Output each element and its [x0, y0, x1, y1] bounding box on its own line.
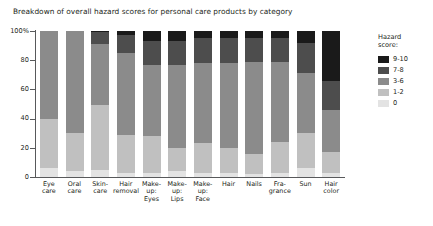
bar-segment[interactable]	[220, 63, 238, 148]
bar-segment[interactable]	[143, 136, 161, 173]
bar-segment[interactable]	[245, 154, 263, 174]
bar-stack[interactable]	[143, 31, 161, 177]
bar-segment[interactable]	[91, 31, 109, 32]
x-axis-tick-label-line: Lips	[164, 196, 190, 203]
bar-stack[interactable]	[245, 31, 263, 177]
x-axis-tick-label-line: Nails	[241, 181, 267, 188]
bar-segment[interactable]	[194, 173, 212, 177]
bar-segment[interactable]	[297, 133, 315, 168]
bar-segment[interactable]	[91, 105, 109, 169]
bar-segment[interactable]	[220, 38, 238, 63]
bar-segment[interactable]	[245, 62, 263, 154]
legend-entry[interactable]: 0	[378, 98, 408, 109]
bar-stack[interactable]	[91, 31, 109, 177]
bar-segment[interactable]	[220, 148, 238, 173]
bar-stack[interactable]	[40, 31, 58, 177]
legend-label: 0	[393, 100, 397, 107]
legend-swatch	[378, 67, 389, 74]
bar-segment[interactable]	[143, 41, 161, 64]
bar-segment[interactable]	[117, 53, 135, 135]
bar-segment[interactable]	[40, 31, 58, 119]
bar-segment[interactable]	[322, 81, 340, 110]
legend-label: 7-8	[393, 67, 404, 74]
bar-segment[interactable]	[66, 31, 84, 133]
bar-segment[interactable]	[168, 171, 186, 177]
x-axis-tick-label-line: Sun	[293, 181, 319, 188]
y-axis-tick	[30, 119, 35, 120]
x-axis-tick-label-line: care	[87, 188, 113, 195]
bar-segment[interactable]	[117, 31, 135, 35]
legend-entry[interactable]: 1-2	[378, 87, 408, 98]
bar-segment[interactable]	[271, 173, 289, 177]
bar-segment[interactable]	[168, 41, 186, 64]
bar-segment[interactable]	[143, 31, 161, 41]
y-axis-line	[35, 30, 36, 178]
bar-segment[interactable]	[322, 173, 340, 177]
y-axis-tick	[30, 89, 35, 90]
x-axis-tick-label-line: care	[62, 188, 88, 195]
bar-stack[interactable]	[271, 31, 289, 177]
x-axis-tick-label: Make-up:Face	[190, 181, 216, 203]
bar-segment[interactable]	[194, 143, 212, 172]
bar-segment[interactable]	[117, 35, 135, 53]
bar-segment[interactable]	[66, 171, 84, 177]
bar-segment[interactable]	[194, 63, 212, 143]
bar-segment[interactable]	[271, 31, 289, 38]
bar-segment[interactable]	[220, 173, 238, 177]
bar-segment[interactable]	[117, 135, 135, 173]
bar-segment[interactable]	[245, 31, 263, 38]
bar-stack[interactable]	[297, 31, 315, 177]
bar-segment[interactable]	[297, 31, 315, 43]
bar-segment[interactable]	[245, 174, 263, 177]
bar-segment[interactable]	[271, 142, 289, 173]
bar-segment[interactable]	[245, 38, 263, 61]
bar-segment[interactable]	[220, 31, 238, 38]
bar-segment[interactable]	[194, 31, 212, 38]
bar-segment[interactable]	[297, 168, 315, 177]
x-axis-tick-label: Eyecare	[36, 181, 62, 196]
legend-title-line: score:	[378, 41, 408, 49]
x-axis-tick-label-line: Hair	[216, 181, 242, 188]
bar-segment[interactable]	[117, 173, 135, 177]
x-axis-tick-label-line: grance	[267, 188, 293, 195]
bar-stack[interactable]	[220, 31, 238, 177]
bar-segment[interactable]	[297, 43, 315, 74]
legend-swatch	[378, 89, 389, 96]
bar-segment[interactable]	[271, 38, 289, 61]
bar-stack-inner	[168, 31, 186, 177]
bar-segment[interactable]	[194, 38, 212, 63]
bar-segment[interactable]	[322, 31, 340, 81]
legend-entry[interactable]: 9-10	[378, 54, 408, 65]
bar-segment[interactable]	[91, 170, 109, 177]
bar-stack[interactable]	[322, 31, 340, 177]
legend-entry[interactable]: 7-8	[378, 65, 408, 76]
bar-segment[interactable]	[322, 152, 340, 172]
x-axis-tick-label-line: color	[318, 188, 344, 195]
bar-segment[interactable]	[143, 65, 161, 137]
chart-figure: Breakdown of overall hazard scores for p…	[0, 0, 433, 226]
bar-stack[interactable]	[168, 31, 186, 177]
bar-segment[interactable]	[297, 73, 315, 133]
y-axis-tick	[30, 177, 35, 178]
bar-segment[interactable]	[40, 168, 58, 177]
bar-stack[interactable]	[194, 31, 212, 177]
bar-stack[interactable]	[117, 31, 135, 177]
bar-segment[interactable]	[91, 32, 109, 44]
x-axis-tick-label-line: removal	[113, 188, 139, 195]
legend-entry[interactable]: 3-6	[378, 76, 408, 87]
bar-segment[interactable]	[40, 119, 58, 169]
bar-segment[interactable]	[66, 133, 84, 171]
legend: Hazardscore: 9-107-83-61-20	[378, 33, 408, 109]
bar-segment[interactable]	[271, 62, 289, 142]
bar-segment[interactable]	[168, 31, 186, 41]
bar-stack-inner	[117, 31, 135, 177]
bar-segment[interactable]	[168, 65, 186, 148]
bar-segment[interactable]	[322, 110, 340, 152]
legend-title-line: Hazard	[378, 33, 408, 41]
bar-segment[interactable]	[91, 44, 109, 105]
bar-segment[interactable]	[143, 173, 161, 177]
bar-segment[interactable]	[168, 148, 186, 171]
bar-stack[interactable]	[66, 31, 84, 177]
y-axis-tick	[30, 148, 35, 149]
y-axis-tick-label: 60	[0, 86, 29, 93]
